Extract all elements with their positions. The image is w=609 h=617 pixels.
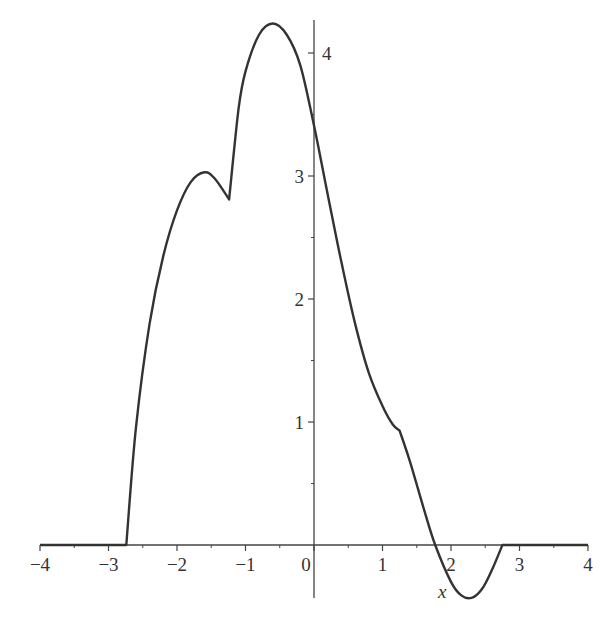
x-tick-label: −1: [235, 554, 255, 575]
x-tick-label: 4: [583, 554, 593, 575]
x-tick-labels: −4−3−2−101234: [30, 554, 593, 575]
y-tick-label: 3: [295, 166, 305, 187]
x-tick-label: 1: [378, 554, 388, 575]
y-tick-label: 1: [295, 412, 305, 433]
x-tick-label: −3: [98, 554, 118, 575]
x-tick-label: 3: [515, 554, 525, 575]
x-axis-label: x: [437, 581, 447, 602]
axes: [40, 20, 588, 598]
x-tick-label: −2: [167, 554, 187, 575]
y-tick-label: 4: [322, 43, 332, 64]
y-tick-label: 2: [295, 289, 305, 310]
x-tick-label: −4: [30, 554, 51, 575]
x-tick-label: 0: [301, 554, 311, 575]
chart-plot: −4−3−2−101234 1234 x: [0, 0, 609, 617]
x-tick-label: 2: [446, 554, 456, 575]
